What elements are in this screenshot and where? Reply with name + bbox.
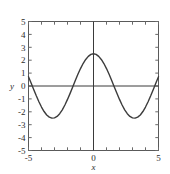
y-axis-tick-labels: 543210-1-2-3-4-5 — [18, 17, 26, 156]
line-chart: 543210-1-2-3-4-5 -505 y x — [0, 0, 170, 174]
y-tick-label: 2 — [21, 55, 26, 65]
chart-figure: 543210-1-2-3-4-5 -505 y x — [0, 0, 170, 174]
x-tick-label: -5 — [25, 153, 33, 163]
x-axis-tick-labels: -505 — [25, 153, 162, 163]
x-tick-label: 0 — [91, 153, 96, 163]
y-axis-title: y — [9, 81, 14, 91]
y-tick-label: 5 — [21, 17, 26, 27]
y-tick-label: 3 — [21, 43, 26, 53]
y-tick-label: -4 — [18, 133, 26, 143]
y-tick-label: 1 — [21, 68, 26, 78]
zero-axis-lines — [29, 22, 159, 151]
y-tick-label: -1 — [18, 94, 26, 104]
y-tick-label: 0 — [21, 81, 26, 91]
x-axis-title: x — [91, 162, 96, 172]
y-tick-label: -3 — [18, 120, 26, 130]
x-tick-label: 5 — [156, 153, 161, 163]
y-tick-label: -2 — [18, 107, 26, 117]
y-tick-label: 4 — [21, 30, 26, 40]
